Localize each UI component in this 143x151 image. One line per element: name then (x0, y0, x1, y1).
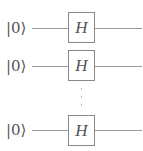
input-state-3: |0⟩ (6, 122, 26, 138)
ellipsis-dot (81, 88, 82, 90)
input-state-1: |0⟩ (6, 20, 26, 36)
hadamard-gate-2: H (68, 50, 95, 81)
ellipsis-dot (81, 96, 82, 98)
ellipsis-dot (81, 104, 82, 106)
hadamard-gate-1: H (68, 12, 95, 43)
hadamard-gate-3: H (68, 115, 95, 146)
input-state-2: |0⟩ (6, 58, 26, 74)
